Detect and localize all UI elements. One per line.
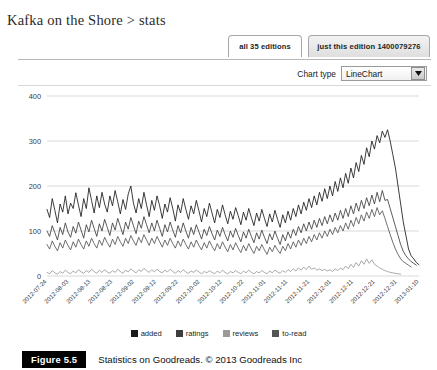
stats-page: Kafka on the Shore > stats all 35 editio…	[0, 0, 437, 370]
series-line-ratings	[47, 191, 416, 266]
tab-all-editions[interactable]: all 35 editions	[228, 35, 302, 57]
stats-chart: 01002003004002012-07-242012-08-032012-08…	[0, 86, 437, 326]
legend-item-reviews[interactable]: reviews	[223, 329, 259, 338]
chart-type-label: Chart type	[297, 69, 336, 79]
legend-swatch-icon	[131, 330, 138, 337]
chevron-down-icon[interactable]	[411, 67, 425, 80]
chart-type-control: Chart type LineChart	[297, 66, 427, 81]
y-axis-tick: 300	[29, 137, 41, 146]
chart-legend: addedratingsreviewsto-read	[0, 326, 437, 340]
y-axis-tick: 400	[29, 92, 41, 101]
legend-label: to-read	[282, 329, 306, 338]
edition-tabs: all 35 editions just this edition 140007…	[0, 35, 437, 61]
figure-caption: Figure 5.5 Statistics on Goodreads. © 20…	[0, 348, 437, 370]
tab-underline	[18, 59, 431, 60]
chart-type-value: LineChart	[342, 69, 411, 79]
series-line-reviews	[47, 259, 401, 274]
legend-swatch-icon	[223, 330, 230, 337]
chart-canvas: 01002003004002012-07-242012-08-032012-08…	[0, 86, 437, 326]
series-line-added	[47, 130, 419, 265]
chart-type-select[interactable]: LineChart	[341, 66, 427, 81]
legend-item-added[interactable]: added	[131, 329, 162, 338]
legend-item-to-read[interactable]: to-read	[272, 329, 306, 338]
page-title: Kafka on the Shore > stats	[7, 12, 166, 29]
legend-label: ratings	[186, 329, 209, 338]
legend-swatch-icon	[176, 330, 183, 337]
legend-label: added	[141, 329, 162, 338]
x-axis-tick: 2013-01-10	[393, 277, 420, 304]
figure-caption-text: Statistics on Goodreads. © 2013 Goodread…	[98, 354, 302, 365]
legend-swatch-icon	[272, 330, 279, 337]
legend-item-ratings[interactable]: ratings	[176, 329, 209, 338]
tab-this-edition[interactable]: just this edition 1400079276	[308, 35, 430, 57]
y-axis-tick: 100	[29, 227, 41, 236]
y-axis-tick: 200	[29, 182, 41, 191]
legend-label: reviews	[233, 329, 259, 338]
figure-number: Figure 5.5	[22, 351, 86, 368]
